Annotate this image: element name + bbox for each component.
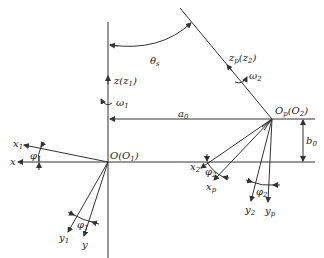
y2-label: y2 xyxy=(244,204,256,217)
y-label: y xyxy=(81,239,88,250)
x1-label: x1 xyxy=(13,138,23,151)
x-label: x xyxy=(10,156,16,167)
theta-label: θs xyxy=(150,55,160,68)
theta-arrow-left xyxy=(110,45,118,46)
origin-label: O(O1) xyxy=(110,150,139,163)
zp-label: zp(z2) xyxy=(228,52,256,65)
y1-label: y1 xyxy=(58,232,69,245)
omega1-label: ω1 xyxy=(116,97,129,110)
phi2-label-y: φ2 xyxy=(256,186,268,199)
phi2-tick-left xyxy=(246,180,252,182)
omega1-rotation-arrow xyxy=(101,99,112,105)
z1-label: z(z1) xyxy=(113,75,137,88)
omega2-label: ω2 xyxy=(249,70,262,83)
phi2-label-x: φ2 xyxy=(205,166,217,179)
phi2-tick-right xyxy=(223,177,229,178)
x2-label: x2 xyxy=(190,161,201,174)
y1-axis xyxy=(68,162,108,232)
xp-axis xyxy=(214,119,272,180)
phi1-label-x: φ1 xyxy=(30,150,41,163)
phi1-tick-right xyxy=(92,222,99,224)
phi1-tick-left xyxy=(68,212,74,215)
b0-label: b0 xyxy=(306,135,317,148)
zp-axis xyxy=(180,8,272,119)
zp-axis-arrow xyxy=(227,65,232,71)
op-label: Op(O2) xyxy=(275,105,308,118)
xp-label: xp xyxy=(206,181,217,194)
theta-arc xyxy=(110,23,191,46)
yp-label: yp xyxy=(264,205,276,218)
phi1-tick-top xyxy=(41,142,44,147)
gear-coordinate-diagram: z(z1) ω1 θs zp(z2) ω2 a0 Op(O2) b0 O(O1)… xyxy=(0,0,324,258)
